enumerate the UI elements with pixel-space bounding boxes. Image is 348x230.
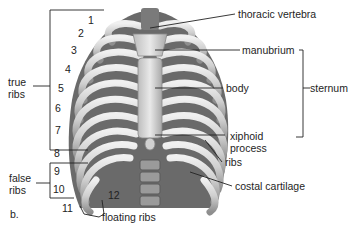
rib-number-4: 4 (65, 63, 71, 75)
label-true-ribs-line2: ribs (8, 88, 26, 100)
rib-number-1: 1 (88, 14, 94, 26)
label-sternum: sternum (310, 82, 348, 94)
label-true-ribs: true ribs (8, 76, 26, 100)
rib-number-8: 8 (54, 147, 60, 159)
label-true-ribs-line1: true (8, 76, 26, 88)
rib-number-11: 11 (62, 202, 73, 214)
label-body: body (226, 82, 249, 94)
rib-number-5: 5 (58, 82, 64, 94)
panel-label: b. (10, 208, 19, 220)
rib-number-2: 2 (78, 27, 84, 39)
rib-number-7: 7 (55, 124, 61, 136)
label-false-ribs: false ribs (9, 172, 31, 196)
label-xiphoid-line2: process (230, 142, 267, 154)
rib-number-6: 6 (55, 102, 61, 114)
label-floating-ribs: floating ribs (102, 211, 156, 223)
rib-number-12: 12 (108, 189, 120, 201)
label-xiphoid-process: xiphoid process (230, 130, 267, 154)
rib-number-9: 9 (54, 165, 60, 177)
label-ribs: ribs (225, 156, 242, 168)
label-thoracic-vertebra: thoracic vertebra (238, 8, 316, 20)
rib-number-10: 10 (53, 183, 65, 195)
label-false-ribs-line2: ribs (9, 184, 31, 196)
rib-number-3: 3 (71, 44, 77, 56)
label-xiphoid-line1: xiphoid (230, 130, 267, 142)
label-false-ribs-line1: false (9, 172, 31, 184)
label-costal-cartilage: costal cartilage (235, 180, 305, 192)
label-manubrium: manubrium (242, 44, 295, 56)
